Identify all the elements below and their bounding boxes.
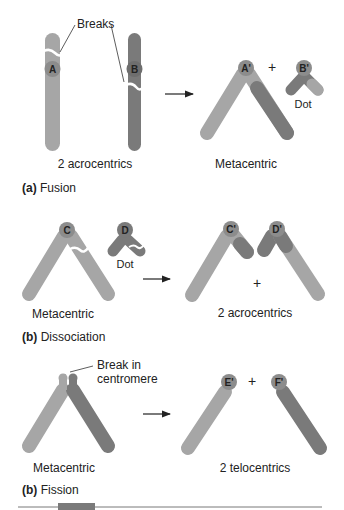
break-in-centromere-line2: centromere: [97, 372, 158, 386]
panel-label-c: (b) Fission: [22, 483, 79, 497]
centromere-label-b-prime: B': [299, 63, 309, 74]
centromere-label-e-prime: E': [224, 377, 233, 388]
centromere-label-d: D: [121, 225, 128, 236]
caption-2-acrocentrics-b: 2 acrocentrics: [218, 306, 293, 320]
chromosome-rearrangement-diagram: A B Breaks 2 acrocentrics A' +: [0, 0, 344, 510]
centromere-label-f-prime: F': [275, 377, 284, 388]
plus-sign-c: +: [248, 373, 256, 389]
plus-sign-b: +: [253, 275, 261, 291]
panel-a-fusion: A B Breaks 2 acrocentrics A' +: [44, 17, 318, 171]
centromere-label-d-prime: D': [272, 224, 282, 235]
centromere-label-c: C: [63, 225, 70, 236]
break-in-centromere-line1: Break in: [97, 358, 141, 372]
panel-label-a: (a) Fusion: [22, 181, 76, 195]
break-leader-a: [60, 25, 75, 52]
bottom-tab-marker: [58, 503, 95, 510]
caption-2-acrocentrics: 2 acrocentrics: [58, 157, 133, 171]
chromosome-b: [126, 33, 143, 151]
chromosome-a: [44, 33, 62, 151]
dot-label-a: Dot: [294, 98, 311, 110]
centromere-label-a-prime: A': [241, 63, 251, 74]
panel-c-fission: Break in centromere Metacentric E' + F' …: [29, 358, 320, 475]
caption-metacentric-c: Metacentric: [33, 461, 95, 475]
breaks-annotation: Breaks: [77, 17, 114, 31]
panel-b-dissociation: C D Dot Metacentric C' D' +: [29, 221, 318, 321]
caption-2-telocentrics: 2 telocentrics: [220, 461, 291, 475]
break-centromere-leader: [70, 366, 93, 372]
centromere-label-a: A: [49, 64, 56, 75]
panel-label-b: (b) Dissociation: [22, 330, 105, 344]
dot-label-b: Dot: [116, 258, 133, 270]
plus-sign-a: +: [268, 59, 276, 75]
acrocentric-c-prime: [192, 221, 247, 295]
caption-metacentric-a: Metacentric: [215, 157, 277, 171]
break-leader-b: [111, 25, 124, 82]
caption-metacentric-b: Metacentric: [32, 307, 94, 321]
centromere-label-b: B: [131, 64, 138, 75]
centromere-label-c-prime: C': [226, 224, 236, 235]
